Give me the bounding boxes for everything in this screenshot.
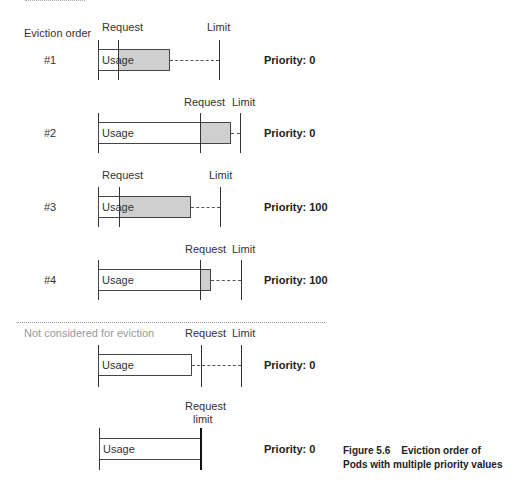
priority-label: Priority: 0: [264, 359, 315, 371]
over-request-fill: [200, 122, 231, 144]
eviction-order-heading: Eviction order: [24, 27, 91, 39]
request-line: [201, 345, 202, 387]
usage-label: Usage: [102, 127, 134, 139]
eviction-divider: [17, 322, 325, 323]
headroom-dash: [191, 207, 220, 208]
limit-line: [220, 187, 221, 227]
headroom-dash: [192, 365, 241, 366]
limit-label: Limit: [207, 21, 230, 33]
priority-label: Priority: 0: [264, 443, 315, 455]
limit-label: Limit: [232, 96, 255, 108]
headroom-dash: [170, 60, 219, 61]
request-label: Request: [184, 96, 225, 108]
limit-line: [241, 345, 242, 387]
limit-line: [219, 40, 220, 80]
order-label: #1: [30, 54, 70, 66]
request-line: [200, 260, 201, 300]
priority-label: Priority: 0: [264, 54, 315, 66]
request-label: Request: [185, 400, 226, 412]
priority-label: Priority: 100: [264, 274, 328, 286]
limit-line: [240, 113, 241, 153]
usage-label: Usage: [102, 201, 134, 213]
headroom-dash: [211, 280, 241, 281]
usage-label: Usage: [102, 54, 134, 66]
request-label: Request: [185, 327, 226, 339]
caption-line-2: Pods with multiple priority values: [343, 458, 502, 472]
usage-label: Usage: [103, 443, 135, 455]
limit-label: limit: [193, 413, 213, 425]
order-label: #2: [30, 127, 70, 139]
order-label: #3: [30, 201, 70, 213]
not-considered-label: Not considered for eviction: [24, 327, 154, 339]
order-label: #4: [30, 274, 70, 286]
request-limit-line: [200, 428, 202, 470]
request-line: [200, 113, 201, 153]
request-label: Request: [185, 243, 226, 255]
priority-label: Priority: 100: [264, 201, 328, 213]
over-request-fill: [200, 269, 211, 291]
cropped-previous-text: [25, 0, 85, 4]
limit-label: Limit: [209, 169, 232, 181]
usage-label: Usage: [102, 274, 134, 286]
limit-line: [241, 260, 242, 300]
limit-label: Limit: [232, 327, 255, 339]
headroom-dash: [231, 133, 240, 134]
request-label: Request: [102, 21, 143, 33]
figure-caption: Figure 5.6 Eviction order of Pods with m…: [343, 444, 502, 472]
limit-label: Limit: [232, 243, 255, 255]
priority-label: Priority: 0: [264, 127, 315, 139]
usage-label: Usage: [102, 359, 134, 371]
request-label: Request: [102, 169, 143, 181]
caption-line-1: Figure 5.6 Eviction order of: [343, 444, 502, 458]
